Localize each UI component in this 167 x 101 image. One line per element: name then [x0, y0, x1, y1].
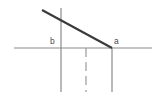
- diagram-canvas: b a: [0, 0, 167, 101]
- point-label-a: a: [114, 37, 119, 46]
- point-label-b: b: [50, 37, 55, 46]
- diagram-svg: [0, 0, 167, 101]
